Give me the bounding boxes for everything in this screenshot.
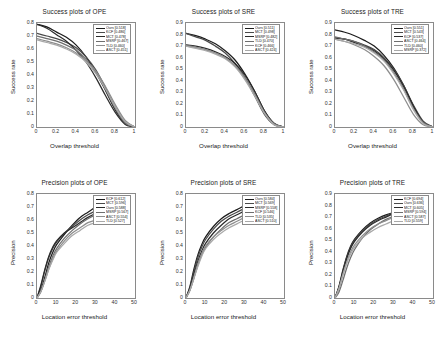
legend-item[interactable]: ASCT [0.424]: [245, 48, 278, 52]
legend-color-swatch: [96, 45, 105, 46]
y-tick-label: 0: [171, 123, 183, 129]
legend-label: MSRP [0.372]: [404, 48, 426, 53]
plot-cell-precision-tre: Precision plots of TREPrecisionLocation …: [298, 172, 447, 343]
y-tick-label: 0.8: [171, 31, 183, 37]
legend-color-swatch: [394, 207, 403, 208]
y-tick-label: 0.8: [22, 19, 34, 25]
legend-color-swatch: [245, 221, 254, 222]
y-axis-label: Precision: [10, 240, 16, 265]
x-tick-label: 30: [390, 299, 396, 305]
legend-color-swatch: [394, 32, 403, 33]
y-tick-label: 0.6: [320, 54, 332, 60]
legend-label: ASCT [0.451]: [106, 48, 128, 53]
y-tick-label: 0: [22, 294, 34, 300]
x-axis-label: Overlap threshold: [149, 142, 298, 149]
legend-color-swatch: [245, 216, 254, 217]
legend-color-swatch: [245, 45, 254, 46]
y-tick-label: 0.5: [22, 229, 34, 235]
plot-cell-precision-sre: Precision plots of SREPrecisionLocation …: [149, 172, 298, 343]
legend-label: ASCT [0.424]: [255, 48, 277, 53]
legend-color-swatch: [245, 207, 254, 208]
y-tick-label: 0.8: [320, 31, 332, 37]
x-tick-label: 0: [184, 128, 187, 134]
y-tick-label: 0.5: [171, 65, 183, 71]
legend-item[interactable]: MSRP [0.372]: [394, 48, 427, 52]
y-axis-label: Success rate: [10, 59, 16, 94]
y-tick-label: 0.3: [320, 88, 332, 94]
y-tick-label: 0.8: [171, 190, 183, 196]
x-tick-label: 20: [72, 299, 78, 305]
x-tick-label: 10: [351, 299, 357, 305]
x-tick-label: 0.4: [72, 128, 79, 134]
plot-cell-success-sre: Success plots of SRESuccess rateOverlap …: [149, 0, 298, 172]
legend-color-swatch: [245, 36, 254, 37]
x-tick-label: 40: [112, 299, 118, 305]
y-tick-label: 0.9: [171, 19, 183, 25]
legend-item[interactable]: ASCT [0.510]: [245, 219, 278, 223]
legend-item[interactable]: TLD [0.527]: [96, 219, 129, 223]
x-tick-label: 0.4: [221, 128, 228, 134]
legend-item[interactable]: TLD [0.559]: [394, 219, 427, 223]
y-tick-label: 0.1: [320, 111, 332, 117]
y-tick-label: 0.7: [320, 213, 332, 219]
legend[interactable]: KCF [0.612]MCT [0.596]Ours [0.588]MSRP […: [93, 195, 131, 225]
legend-color-swatch: [96, 207, 105, 208]
x-tick-label: 1: [282, 128, 285, 134]
y-tick-label: 0.3: [320, 259, 332, 265]
plot-title: Precision plots of TRE: [298, 179, 447, 186]
legend-color-swatch: [245, 32, 254, 33]
y-tick-label: 0.8: [320, 202, 332, 208]
x-tick-label: 0.8: [409, 128, 416, 134]
legend[interactable]: KCF [0.694]Ours [0.636]MCT [0.605]MSRP […: [391, 195, 429, 225]
x-tick-label: 0.8: [111, 128, 118, 134]
x-tick-label: 0: [333, 128, 336, 134]
data-series-line: [335, 213, 409, 298]
legend-color-swatch: [96, 221, 105, 222]
x-tick-label: 10: [53, 299, 59, 305]
x-tick-label: 50: [429, 299, 435, 305]
y-tick-label: 0.5: [320, 236, 332, 242]
y-tick-label: 0.1: [22, 281, 34, 287]
y-tick-label: 0.7: [22, 203, 34, 209]
y-tick-label: 0.3: [171, 88, 183, 94]
y-tick-label: 0.3: [22, 255, 34, 261]
x-tick-label: 20: [221, 299, 227, 305]
x-tick-label: 0.8: [260, 128, 267, 134]
legend-color-swatch: [394, 45, 403, 46]
x-tick-label: 30: [92, 299, 98, 305]
y-tick-label: 0.3: [171, 255, 183, 261]
legend-item[interactable]: ASCT [0.451]: [96, 48, 129, 52]
y-tick-label: 0.7: [22, 32, 34, 38]
y-tick-label: 0.6: [171, 216, 183, 222]
y-tick-label: 0.2: [320, 100, 332, 106]
y-axis-label: Success rate: [308, 59, 314, 94]
legend[interactable]: Ours [0.518]KCF [0.486]MCT [0.478]MSRP […: [93, 24, 131, 54]
y-tick-label: 0.9: [320, 190, 332, 196]
y-tick-label: 0.5: [320, 65, 332, 71]
legend-color-swatch: [394, 41, 403, 42]
y-tick-label: 0.9: [320, 19, 332, 25]
legend-color-swatch: [245, 212, 254, 213]
legend[interactable]: Ours [0.551]MCT [0.543]KCF [0.537]ASCT […: [391, 24, 429, 54]
legend[interactable]: Ours [0.584]MCT [0.569]MSRP [0.558]KCF […: [242, 195, 280, 225]
x-tick-label: 50: [280, 299, 286, 305]
x-axis-label: Location error threshold: [298, 313, 447, 320]
x-tick-label: 0.2: [350, 128, 357, 134]
legend-color-swatch: [245, 50, 254, 51]
y-tick-label: 0: [320, 294, 332, 300]
x-tick-label: 0: [35, 128, 38, 134]
legend-color-swatch: [394, 28, 403, 29]
legend-color-swatch: [245, 41, 254, 42]
plot-title: Success plots of TRE: [298, 8, 447, 15]
y-tick-label: 0.7: [171, 42, 183, 48]
legend-label: TLD [0.559]: [404, 219, 423, 224]
y-tick-label: 0.6: [171, 54, 183, 60]
legend[interactable]: Ours [0.511]MCT [0.498]MSRP [0.482]TLD […: [242, 24, 280, 54]
legend-color-swatch: [96, 41, 105, 42]
legend-color-swatch: [96, 216, 105, 217]
x-tick-label: 0.4: [370, 128, 377, 134]
legend-color-swatch: [96, 203, 105, 204]
x-tick-label: 0.6: [389, 128, 396, 134]
y-tick-label: 0.4: [22, 242, 34, 248]
y-tick-label: 0.4: [22, 71, 34, 77]
